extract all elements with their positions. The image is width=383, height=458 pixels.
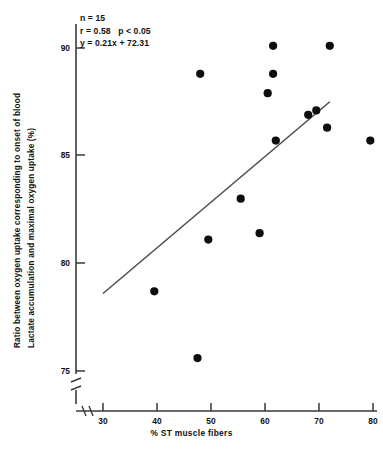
y-axis-label-line-2: Lactate accumulation and maximal oxygen … xyxy=(27,128,36,348)
data-point xyxy=(269,42,277,50)
y-tick-label-85: 85 xyxy=(61,150,71,160)
data-point xyxy=(256,229,264,237)
x-axis-title: % ST muscle fibers xyxy=(0,428,383,438)
data-point xyxy=(304,111,312,119)
data-point xyxy=(312,106,320,114)
x-tick-label-50: 50 xyxy=(206,416,216,426)
y-axis-label: Ratio between oxygen uptake correspondin… xyxy=(0,0,46,380)
axis-lines xyxy=(71,24,377,416)
data-point xyxy=(272,137,280,145)
y-axis-label-line-1: Ratio between oxygen uptake correspondin… xyxy=(13,93,22,348)
y-tick-label-80: 80 xyxy=(61,258,71,268)
regression-line xyxy=(103,102,330,294)
plot-canvas: 90 85 80 75 30 40 50 60 70 80 xyxy=(0,0,383,458)
statistics-annotation: n = 15 r = 0.58 p < 0.05 y = 0.21x + 72.… xyxy=(80,12,151,50)
x-axis-ticks: 30 40 50 60 70 80 xyxy=(98,403,378,426)
y-tick-label-90: 90 xyxy=(61,43,71,53)
data-point xyxy=(323,124,331,132)
data-point xyxy=(196,70,204,78)
x-tick-label-70: 70 xyxy=(314,416,324,426)
x-tick-label-80: 80 xyxy=(368,416,378,426)
scatter-plot-figure: Ratio between oxygen uptake correspondin… xyxy=(0,0,383,458)
data-point xyxy=(269,70,277,78)
data-points-layer xyxy=(150,42,374,363)
y-tick-label-75: 75 xyxy=(61,366,71,376)
y-axis-break-icon xyxy=(71,378,81,390)
data-point xyxy=(150,287,158,295)
data-point xyxy=(237,195,245,203)
x-tick-label-40: 40 xyxy=(152,416,162,426)
x-tick-label-60: 60 xyxy=(260,416,270,426)
data-point xyxy=(193,354,201,362)
y-axis-ticks: 90 85 80 75 xyxy=(61,43,85,376)
data-point xyxy=(326,42,334,50)
x-tick-label-30: 30 xyxy=(98,416,108,426)
data-point xyxy=(366,137,374,145)
data-point xyxy=(264,89,272,97)
data-point xyxy=(204,236,212,244)
